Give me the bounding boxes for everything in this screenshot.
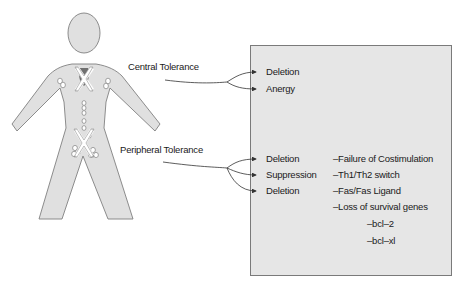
central-tolerance-label: Central Tolerance [128,61,199,72]
human-figure-icon [12,13,160,219]
peripheral-tolerance-arrows [163,159,256,191]
gene-bcl-xl: –bcl–xl [367,235,395,246]
diagram-graphics [0,0,459,290]
gene-bcl-2: –bcl–2 [367,218,394,229]
mechanism-survival-genes: –Loss of survival genes [333,201,428,212]
mechanism-fas-ligand: –Fas/Fas Ligand [333,185,401,196]
peripheral-tolerance-label: Peripheral Tolerance [120,144,203,155]
peripheral-outcome-deletion: Deletion [266,153,299,164]
peripheral-outcome-deletion-2: Deletion [266,185,299,196]
central-outcome-deletion: Deletion [266,66,299,77]
peripheral-outcome-suppression: Suppression [266,169,317,180]
tolerance-diagram: Central Tolerance Peripheral Tolerance D… [0,0,459,290]
central-outcome-anergy: Anergy [266,83,295,94]
mechanism-costimulation: –Failure of Costimulation [333,153,433,164]
central-tolerance-arrows [165,72,256,89]
mechanism-th-switch: –Th1/Th2 switch [333,169,400,180]
